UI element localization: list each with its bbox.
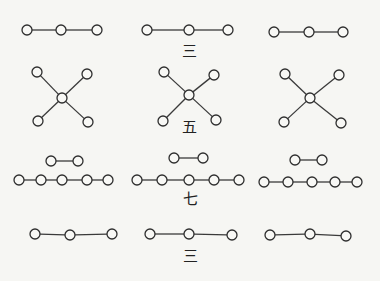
row1-right-line-of-3 — [269, 27, 348, 37]
circle-node — [82, 69, 92, 79]
connector-line — [289, 77, 307, 94]
circle-node — [14, 175, 24, 185]
circle-node — [107, 229, 117, 239]
circle-node — [336, 118, 346, 128]
circle-node — [184, 90, 194, 100]
circle-node — [32, 67, 42, 77]
circle-node — [283, 177, 293, 187]
circle-node — [305, 93, 315, 103]
circle-node — [57, 93, 67, 103]
circle-node — [234, 175, 244, 185]
circle-node — [184, 175, 194, 185]
circle-node — [279, 117, 289, 127]
circle-node — [73, 156, 83, 166]
connector-line — [194, 234, 227, 235]
circle-node — [209, 175, 219, 185]
circle-node — [36, 175, 46, 185]
connector-line — [314, 78, 335, 95]
connector-line — [40, 76, 58, 95]
row3-left-pair — [46, 156, 83, 166]
circle-node — [307, 177, 317, 187]
connector-line — [315, 234, 341, 235]
circle-node — [259, 177, 269, 187]
circle-node — [132, 175, 142, 185]
row1-middle-line-of-3 — [142, 25, 233, 35]
circle-node — [22, 25, 32, 35]
circle-node — [269, 27, 279, 37]
circle-node — [304, 27, 314, 37]
connector-line — [168, 75, 186, 91]
circle-node — [352, 177, 362, 187]
label-san-bottom: 三 — [183, 249, 198, 264]
circle-node — [211, 115, 221, 125]
circle-node — [56, 25, 66, 35]
connector-line — [193, 98, 213, 116]
circle-node — [65, 230, 75, 240]
circle-node — [317, 155, 327, 165]
connector-line — [66, 101, 85, 118]
circle-node — [159, 67, 169, 77]
connector-line — [42, 101, 59, 117]
row4-right-line-of-3 — [265, 229, 351, 241]
circle-node — [57, 175, 67, 185]
circle-node — [169, 153, 179, 163]
connector-line — [193, 78, 210, 92]
row3-right-line-of-5 — [259, 177, 362, 187]
row4-left-line-of-3 — [30, 229, 117, 240]
connector-line — [40, 234, 65, 235]
circle-node — [158, 116, 168, 126]
label-qi: 七 — [183, 192, 198, 207]
row3-middle-line-of-5 — [132, 175, 244, 185]
row2-left-x-of-5 — [32, 67, 93, 127]
circle-node — [338, 27, 348, 37]
row3-left-line-of-5 — [14, 175, 113, 185]
circle-node — [83, 117, 93, 127]
row3-right-pair — [290, 155, 327, 165]
circle-node — [227, 230, 237, 240]
connector-line — [66, 77, 84, 94]
circle-node — [157, 175, 167, 185]
connector-line — [314, 101, 337, 120]
circle-node — [103, 175, 113, 185]
circle-node — [305, 229, 315, 239]
connector-line — [75, 234, 107, 235]
circle-node — [341, 231, 351, 241]
circle-node — [330, 177, 340, 187]
circle-node — [46, 156, 56, 166]
connector-line — [167, 99, 186, 118]
circle-node — [334, 70, 344, 80]
circle-node — [145, 229, 155, 239]
circle-node — [82, 175, 92, 185]
circle-node — [184, 229, 194, 239]
circle-node — [92, 25, 102, 35]
circle-node — [30, 229, 40, 239]
row1-left-line-of-3 — [22, 25, 102, 35]
circle-node — [290, 155, 300, 165]
row4-middle-line-of-3 — [145, 229, 237, 240]
row2-right-x-of-5 — [279, 69, 346, 128]
circle-node — [265, 230, 275, 240]
circle-node — [184, 25, 194, 35]
circle-node — [209, 70, 219, 80]
label-san-top: 三 — [182, 44, 197, 59]
connector-line — [288, 101, 307, 118]
circle-node — [280, 69, 290, 79]
label-wu: 五 — [182, 120, 197, 135]
circle-node — [198, 153, 208, 163]
circle-node — [223, 25, 233, 35]
row3-middle-pair — [169, 153, 208, 163]
circle-node — [33, 116, 43, 126]
connector-line — [275, 234, 305, 235]
circle-node — [142, 25, 152, 35]
